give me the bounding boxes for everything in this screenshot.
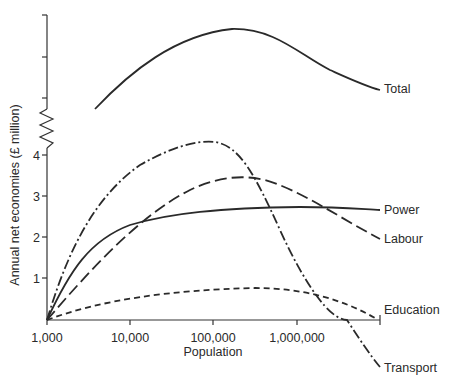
- series-education-line: [47, 288, 375, 320]
- x-tick-label-100000: 100,000: [190, 331, 235, 345]
- series-labour-line: [47, 177, 380, 320]
- label-education: Education: [384, 303, 440, 317]
- series-total-line: [95, 29, 380, 109]
- x-tick-label-10000: 10,000: [111, 331, 149, 345]
- label-transport: Transport: [384, 361, 438, 375]
- chart-figure: 4 3 2 1 1,000 10,000 100,000 1,000,000 P…: [0, 0, 461, 384]
- y-tick-label-3: 3: [33, 190, 40, 204]
- x-tick-label-1000000: 1,000,000: [269, 331, 325, 345]
- label-total: Total: [384, 82, 410, 96]
- x-tick-label-1000: 1,000: [31, 331, 62, 345]
- label-power: Power: [384, 203, 419, 217]
- x-axis-label: Population: [183, 345, 242, 359]
- y-tick-label-1: 1: [33, 272, 40, 286]
- y-axis-break: [40, 109, 53, 148]
- label-labour: Labour: [384, 232, 423, 246]
- y-tick-label-2: 2: [33, 231, 40, 245]
- y-axis-label: Annual net economies (£ million): [8, 104, 22, 285]
- y-tick-label-4: 4: [33, 149, 40, 163]
